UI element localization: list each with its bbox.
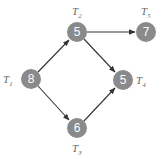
task-graph: 8 T1 5 T2 6 T3 5 T4 7 T5 — [0, 0, 161, 159]
node-t4: 5 T4 — [113, 70, 146, 90]
node-t3-label: T3 — [72, 142, 82, 157]
node-t1-value: 8 — [28, 72, 35, 86]
edge-t1-t2 — [38, 40, 69, 72]
node-t5-value: 7 — [143, 25, 150, 39]
node-t3: 6 T3 — [67, 118, 87, 157]
node-t2-value: 5 — [74, 25, 81, 39]
node-t4-value: 5 — [120, 73, 127, 87]
node-t1: 8 T1 — [3, 69, 41, 89]
node-t2-label: T2 — [72, 5, 82, 20]
node-t5: 7 T5 — [136, 5, 156, 42]
node-t1-label: T1 — [3, 73, 13, 88]
edge-t3-t4 — [84, 88, 115, 121]
node-t3-value: 6 — [74, 121, 81, 135]
node-t2: 5 T2 — [67, 5, 87, 42]
edge-t1-t3 — [38, 86, 69, 120]
edge-t2-t4 — [84, 39, 115, 72]
node-t5-label: T5 — [141, 5, 151, 20]
node-t4-label: T4 — [136, 74, 146, 89]
